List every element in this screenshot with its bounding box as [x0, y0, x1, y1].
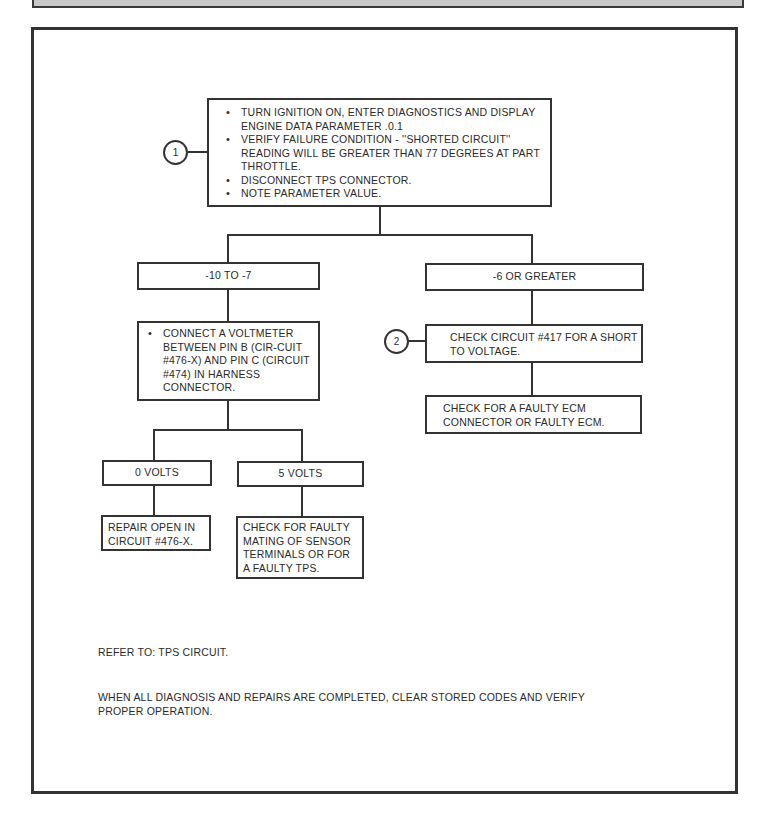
- voltmeter-box: CONNECT A VOLTMETER BETWEEN PIN B (CIR-C…: [137, 321, 320, 401]
- connector-line: [153, 485, 155, 516]
- step1-item: TURN IGNITION ON, ENTER DIAGNOSTICS AND …: [241, 106, 542, 133]
- five-volts-label: 5 VOLTS: [279, 467, 323, 481]
- condition-box-right: -6 OR GREATER: [425, 263, 644, 291]
- step-marker-2: 2: [384, 329, 409, 354]
- connector-line: [227, 400, 229, 431]
- connector-line: [408, 340, 426, 342]
- connector-line: [153, 429, 303, 431]
- condition-label: -10 TO -7: [205, 269, 251, 283]
- voltmeter-list: CONNECT A VOLTMETER BETWEEN PIN B (CIR-C…: [139, 327, 312, 395]
- refer-to-note: REFER TO: TPS CIRCUIT.: [98, 645, 228, 659]
- step1-list: TURN IGNITION ON, ENTER DIAGNOSTICS AND …: [217, 106, 542, 201]
- step1-box: TURN IGNITION ON, ENTER DIAGNOSTICS AND …: [207, 98, 552, 207]
- faulty-mating-text: CHECK FOR FAULTY MATING OF SENSOR TERMIN…: [243, 521, 351, 574]
- repair-open-text: REPAIR OPEN IN CIRCUIT #476-X.: [108, 521, 195, 547]
- check-circuit-text: CHECK CIRCUIT #417 FOR A SHORT TO VOLTAG…: [450, 331, 637, 357]
- connector-line: [301, 429, 303, 462]
- connector-line: [227, 234, 533, 236]
- connector-line: [379, 206, 381, 236]
- connector-line: [188, 151, 208, 153]
- five-volts-box: 5 VOLTS: [237, 461, 364, 487]
- check-circuit-box: CHECK CIRCUIT #417 FOR A SHORT TO VOLTAG…: [425, 324, 643, 363]
- connector-line: [531, 362, 533, 396]
- voltmeter-item: CONNECT A VOLTMETER BETWEEN PIN B (CIR-C…: [163, 327, 312, 395]
- connector-line: [531, 234, 533, 264]
- condition-label: -6 OR GREATER: [493, 270, 577, 284]
- step1-item: NOTE PARAMETER VALUE.: [241, 187, 542, 201]
- faulty-mating-box: CHECK FOR FAULTY MATING OF SENSOR TERMIN…: [236, 516, 364, 579]
- connector-line: [227, 234, 229, 263]
- step-marker-1-label: 1: [173, 147, 179, 158]
- connector-line: [301, 486, 303, 517]
- completion-note: WHEN ALL DIAGNOSIS AND REPAIRS ARE COMPL…: [98, 690, 598, 718]
- connector-line: [153, 429, 155, 461]
- condition-box-left: -10 TO -7: [137, 262, 320, 290]
- previous-page-frame-edge: [32, 0, 744, 8]
- check-ecm-box: CHECK FOR A FAULTY ECM CONNECTOR OR FAUL…: [425, 395, 642, 434]
- step1-item: VERIFY FAILURE CONDITION - ''SHORTED CIR…: [241, 133, 542, 174]
- connector-line: [531, 290, 533, 325]
- repair-open-box: REPAIR OPEN IN CIRCUIT #476-X.: [101, 515, 211, 551]
- step-marker-1: 1: [163, 140, 188, 165]
- step1-item: DISCONNECT TPS CONNECTOR.: [241, 174, 542, 188]
- step-marker-2-label: 2: [394, 336, 400, 347]
- connector-line: [227, 289, 229, 322]
- zero-volts-box: 0 VOLTS: [102, 460, 212, 486]
- zero-volts-label: 0 VOLTS: [135, 466, 179, 480]
- check-ecm-text: CHECK FOR A FAULTY ECM CONNECTOR OR FAUL…: [443, 402, 605, 428]
